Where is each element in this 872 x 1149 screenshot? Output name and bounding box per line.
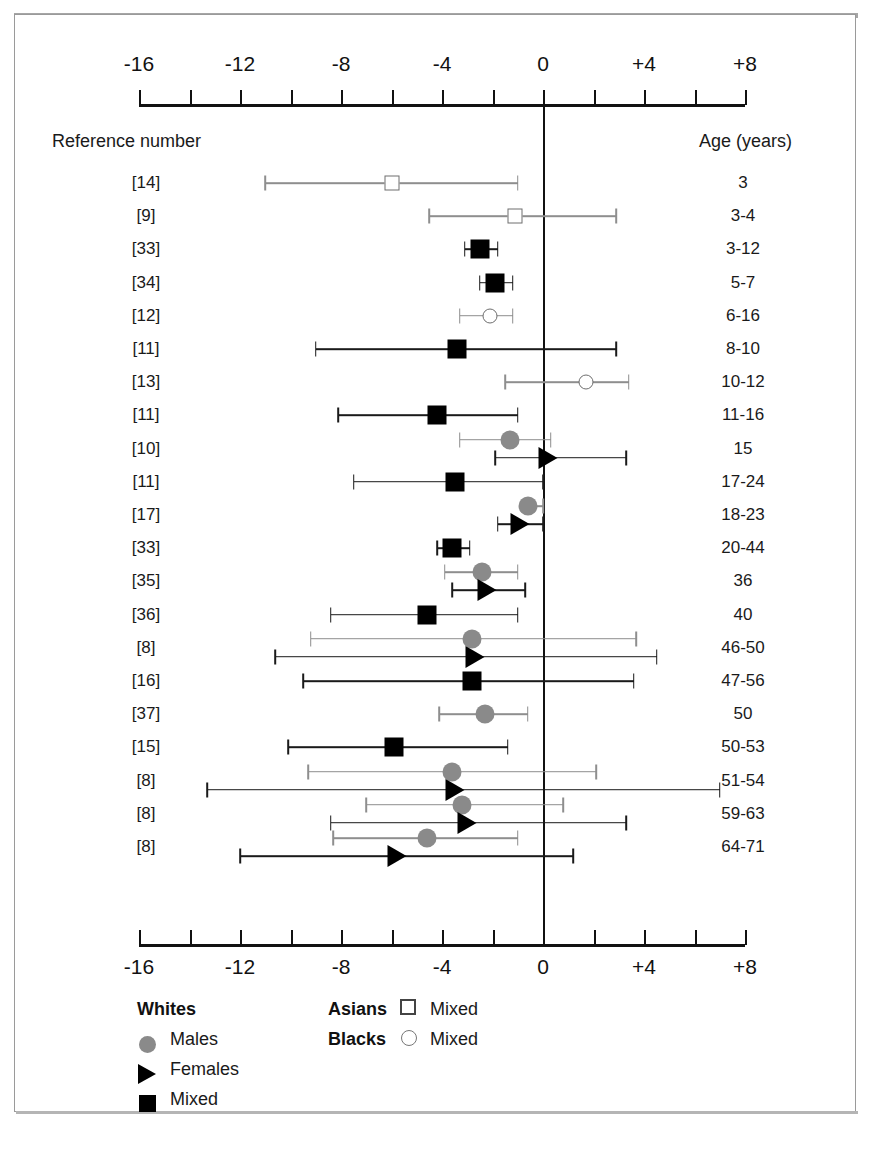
top-axis-tick: [543, 90, 545, 105]
error-bar-cap-high: [636, 631, 638, 646]
top-axis-tick: [594, 90, 596, 105]
bottom-axis-tick: [291, 930, 293, 945]
reference-number-cell: [17]: [132, 505, 160, 525]
marker-black-triangle: [465, 646, 484, 668]
bottom-axis-tick: [745, 930, 747, 945]
reference-number-cell: [35]: [132, 571, 160, 591]
reference-number-cell: [15]: [132, 737, 160, 757]
legend-entry-males: Males: [170, 1029, 218, 1050]
age-years-header: Age (years): [699, 131, 792, 152]
reference-number-cell: [9]: [137, 206, 156, 226]
marker-open-circle: [482, 308, 497, 323]
bottom-axis-tick-label: -16: [124, 955, 154, 979]
top-axis-tick: [139, 90, 141, 105]
top-axis-tick-label: -12: [225, 52, 255, 76]
reference-number-cell: [11]: [132, 472, 159, 492]
error-bar-cap-low: [275, 649, 277, 664]
error-bar-cap-low: [307, 764, 309, 779]
marker-black-triangle: [539, 447, 558, 469]
top-axis-tick-label: +8: [733, 52, 757, 76]
error-bar-cap-high: [633, 674, 635, 689]
reference-number-cell: [14]: [132, 173, 160, 193]
top-axis-tick-label: 0: [537, 52, 549, 76]
top-axis-tick: [695, 90, 697, 105]
error-bar-cap-low: [451, 583, 453, 598]
legend-asians-open-square-icon: [400, 999, 416, 1015]
age-years-cell: 59-63: [721, 804, 764, 824]
bottom-axis-tick: [493, 930, 495, 945]
error-bar-cap-low: [497, 517, 499, 532]
reference-number-cell: [33]: [132, 239, 160, 259]
legend-entry-mixed-whites: Mixed: [170, 1089, 218, 1110]
error-bar-line: [429, 215, 616, 217]
error-bar-cap-high: [542, 474, 544, 489]
legend-blacks-open-circle-icon: [401, 1030, 417, 1046]
error-bar-line: [240, 855, 573, 857]
bottom-axis-tick-label: +4: [632, 955, 656, 979]
bottom-axis-tick: [594, 930, 596, 945]
age-years-cell: 17-24: [721, 472, 764, 492]
error-bar-cap-high: [527, 707, 529, 722]
reference-number-cell: [8]: [137, 837, 156, 857]
legend-mixed-square-icon: [139, 1095, 156, 1112]
error-bar-cap-high: [517, 831, 519, 846]
error-bar-cap-high: [562, 797, 564, 812]
legend-group-title-asians: Asians: [328, 999, 387, 1020]
bottom-axis-tick: [644, 930, 646, 945]
age-years-cell: 11-16: [722, 405, 764, 425]
reference-number-header: Reference number: [52, 131, 201, 152]
top-axis-tick: [493, 90, 495, 105]
age-years-cell: 50-53: [721, 737, 764, 757]
reference-number-cell: [10]: [132, 439, 160, 459]
error-bar-cap-low: [239, 849, 241, 864]
error-bar-cap-low: [330, 815, 332, 830]
marker-grey-circle: [475, 705, 494, 724]
top-axis-tick: [291, 90, 293, 105]
error-bar-cap-high: [615, 342, 617, 357]
bottom-axis-tick-label: 0: [537, 955, 549, 979]
bottom-axis-tick: [341, 930, 343, 945]
error-bar-cap-high: [525, 583, 527, 598]
top-axis-tick: [745, 90, 747, 105]
age-years-cell: 36: [734, 571, 753, 591]
bottom-axis-tick: [392, 930, 394, 945]
age-years-cell: 8-10: [726, 339, 760, 359]
forest-plot: -16-16-12-12-8-8-4-400+4+4+8+8Reference …: [0, 0, 872, 1149]
error-bar-line: [331, 822, 626, 824]
error-bar-cap-high: [656, 649, 658, 664]
marker-filled-square: [463, 672, 482, 691]
top-axis-tick: [442, 90, 444, 105]
reference-number-cell: [8]: [137, 638, 156, 658]
top-axis-tick-label: -4: [433, 52, 452, 76]
error-bar-cap-low: [338, 408, 340, 423]
top-axis-tick: [341, 90, 343, 105]
marker-black-triangle: [458, 812, 477, 834]
age-years-cell: 64-71: [721, 837, 764, 857]
marker-black-triangle: [511, 513, 530, 535]
marker-black-triangle: [387, 845, 406, 867]
error-bar-cap-low: [315, 342, 317, 357]
error-bar-cap-low: [494, 450, 496, 465]
reference-number-cell: [33]: [132, 538, 160, 558]
error-bar-cap-low: [302, 674, 304, 689]
top-axis-tick-label: +4: [632, 52, 656, 76]
error-bar-cap-low: [310, 631, 312, 646]
age-years-cell: 3-4: [731, 206, 756, 226]
error-bar-cap-high: [615, 209, 617, 224]
error-bar-cap-high: [512, 308, 514, 323]
error-bar-cap-low: [206, 782, 208, 797]
top-axis-tick-label: -8: [332, 52, 351, 76]
error-bar-cap-low: [436, 541, 438, 556]
error-bar-cap-high: [542, 499, 544, 514]
bottom-axis-tick: [240, 930, 242, 945]
reference-number-cell: [8]: [137, 771, 156, 791]
reference-number-cell: [12]: [132, 306, 160, 326]
bottom-axis-tick-label: -8: [332, 955, 351, 979]
age-years-cell: 18-23: [721, 505, 764, 525]
bottom-axis-tick: [695, 930, 697, 945]
marker-black-triangle: [478, 579, 497, 601]
marker-filled-square: [470, 240, 489, 259]
legend-group-title-blacks: Blacks: [328, 1029, 386, 1050]
marker-filled-square: [417, 605, 436, 624]
error-bar-line: [495, 457, 626, 459]
